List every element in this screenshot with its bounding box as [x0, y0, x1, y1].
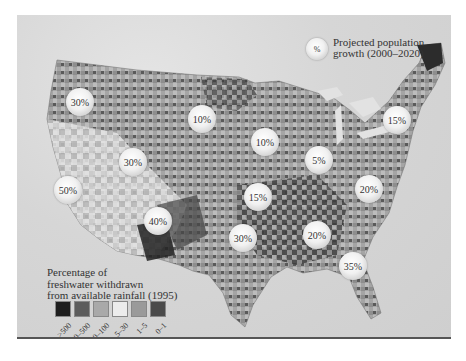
- growth-bubble: 35%: [339, 252, 367, 280]
- legend-swatch: [112, 301, 128, 317]
- growth-bubble: 40%: [144, 207, 172, 235]
- legend-swatch: [55, 301, 71, 317]
- growth-bubble: 10%: [251, 128, 279, 156]
- growth-legend-label: Projected population growth (2000–2020): [333, 37, 424, 59]
- growth-bubble: 20%: [355, 175, 383, 203]
- growth-bubble: 15%: [383, 106, 411, 134]
- withdrawal-legend-swatches: [55, 301, 166, 317]
- legend-swatch: [74, 301, 90, 317]
- growth-bubble: 15%: [244, 183, 272, 211]
- growth-bubble: 30%: [229, 224, 257, 252]
- withdrawal-legend-line1: Percentage of: [47, 267, 177, 279]
- growth-bubble: 30%: [119, 148, 147, 176]
- legend-swatch: [93, 301, 109, 317]
- growth-bubble: 30%: [66, 88, 94, 116]
- growth-legend-line2: growth (2000–2020): [333, 48, 424, 59]
- growth-bubble: 5%: [305, 146, 333, 174]
- withdrawal-legend-line3: from available rainfall (1995): [47, 290, 177, 302]
- legend-swatch: [150, 301, 166, 317]
- growth-bubble: 50%: [54, 176, 82, 204]
- withdrawal-legend-title: Percentage of freshwater withdrawn from …: [47, 267, 177, 302]
- growth-bubble: 10%: [188, 105, 216, 133]
- legend-swatch: [131, 301, 147, 317]
- growth-legend-symbol: %: [306, 38, 328, 60]
- growth-bubble: 20%: [303, 221, 331, 249]
- map-panel: % Projected population growth (2000–2020…: [17, 15, 451, 339]
